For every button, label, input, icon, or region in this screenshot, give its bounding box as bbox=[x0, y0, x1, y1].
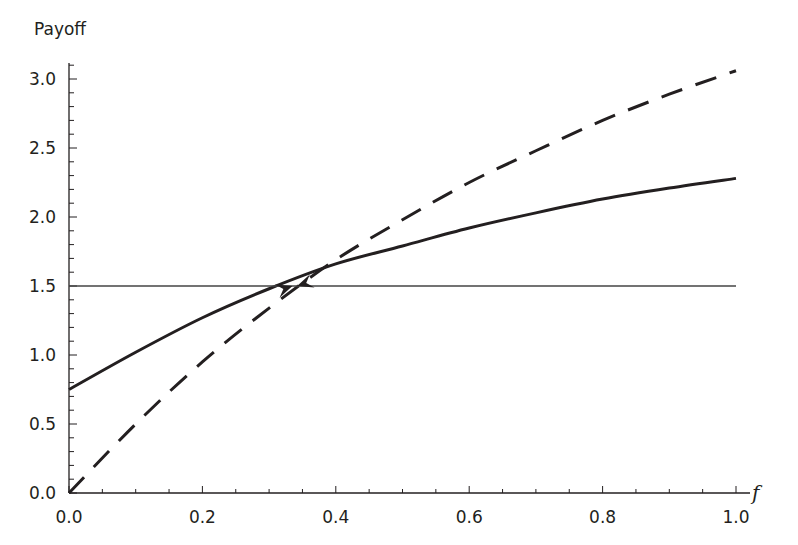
axes bbox=[69, 63, 750, 493]
y-tick-label: 1.0 bbox=[29, 345, 56, 365]
x-tick-label: 0.0 bbox=[55, 507, 82, 527]
y-tick-label: 3.0 bbox=[29, 69, 56, 89]
x-tick-label: 0.6 bbox=[456, 507, 483, 527]
x-tick-label: 1.0 bbox=[722, 507, 749, 527]
y-tick-label: 0.5 bbox=[29, 414, 56, 434]
x-tick-label: 0.8 bbox=[589, 507, 616, 527]
x-axis-title: f bbox=[750, 481, 763, 505]
x-tick-label: 0.2 bbox=[189, 507, 216, 527]
x-tick-label: 0.4 bbox=[322, 507, 349, 527]
y-tick-label: 0.0 bbox=[29, 483, 56, 503]
y-tick-label: 2.0 bbox=[29, 207, 56, 227]
series-lines bbox=[69, 71, 736, 493]
series-dashed-line bbox=[69, 71, 736, 493]
series-solid-line bbox=[69, 178, 736, 389]
ticks: 0.00.20.40.60.81.00.00.51.01.52.02.53.0 bbox=[29, 65, 750, 527]
payoff-chart: Payoff f 0.00.20.40.60.81.00.00.51.01.52… bbox=[0, 0, 798, 545]
y-tick-label: 1.5 bbox=[29, 276, 56, 296]
y-axis-title: Payoff bbox=[34, 19, 87, 39]
y-tick-label: 2.5 bbox=[29, 138, 56, 158]
